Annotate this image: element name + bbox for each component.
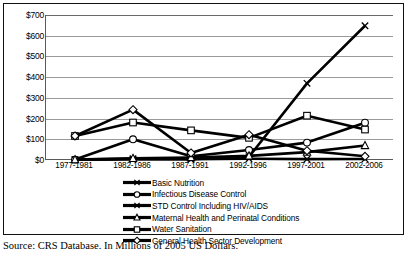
x-marker	[122, 200, 152, 211]
x-tick-label: 2002-2006	[345, 161, 382, 170]
chart-plot-container: $700 $600 $500 $400 $300 $200 $100 $0	[4, 4, 405, 236]
legend-label: Basic Nutrition	[152, 178, 204, 188]
chart-border-box: $700 $600 $500 $400 $300 $200 $100 $0	[3, 3, 404, 235]
legend-label: Maternal Health and Perinatal Conditions	[152, 213, 299, 223]
legend-item[interactable]: Infectious Disease Control	[122, 189, 402, 201]
legend-label: STD Control Including HIV/AIDS	[152, 201, 268, 211]
triangle-marker	[122, 212, 152, 223]
x-tick-label: 1992-1996	[229, 161, 266, 170]
circle-marker	[122, 189, 152, 200]
y-tick-label: $100	[10, 135, 44, 143]
series-lines	[46, 15, 394, 160]
y-axis-ticks: $700 $600 $500 $400 $300 $200 $100 $0	[4, 4, 44, 236]
y-tick-label: $200	[10, 115, 44, 123]
y-tick-label: $500	[10, 52, 44, 60]
series-std-control-including-hiv-aids	[72, 23, 368, 163]
source-caption: Source: CRS Database. In Millions of 200…	[3, 240, 238, 251]
legend-item[interactable]: Maternal Health and Perinatal Conditions	[122, 212, 402, 224]
x-tick-label: 1982-1986	[113, 161, 150, 170]
square-marker	[122, 224, 152, 235]
y-tick-label: $300	[10, 94, 44, 102]
legend-label: Infectious Disease Control	[152, 189, 246, 199]
y-tick-label: $0	[10, 156, 44, 164]
legend-label: Water Sanitation	[152, 224, 211, 234]
x-tick-label: 1997-2001	[287, 161, 324, 170]
legend-item[interactable]: Basic Nutrition	[122, 177, 402, 189]
y-tick-label: $700	[10, 11, 44, 19]
x-tick-label: 1977-1981	[55, 161, 92, 170]
x-marker	[122, 177, 152, 188]
x-tick-label: 1987-1991	[171, 161, 208, 170]
legend-item[interactable]: STD Control Including HIV/AIDS	[122, 200, 402, 212]
plot-area	[45, 15, 393, 160]
y-tick-label: $600	[10, 32, 44, 40]
chart-legend: Basic NutritionInfectious Disease Contro…	[122, 177, 402, 247]
y-tick-label: $400	[10, 73, 44, 81]
legend-item[interactable]: Water Sanitation	[122, 223, 402, 235]
chart-figure: $700 $600 $500 $400 $300 $200 $100 $0	[0, 0, 409, 258]
